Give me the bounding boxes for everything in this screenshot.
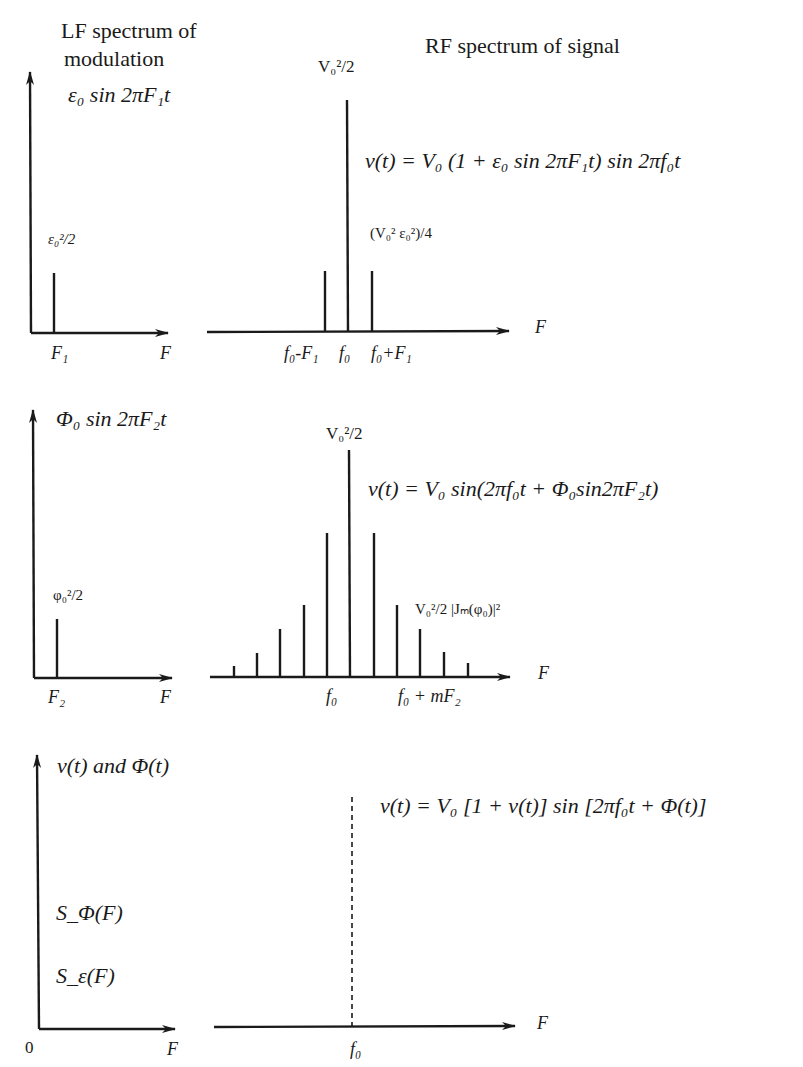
- fm-rf-sideband-label: V₀²/2 |Jₘ(φ₀)|²: [415, 602, 500, 617]
- am-lf-y-axis: [30, 72, 31, 333]
- noise-lf-origin: 0: [25, 1039, 34, 1056]
- fm-lf-x-axis-label: F: [160, 688, 171, 706]
- fm-rf-equation: v(t) = V₀ sin(2πf₀t + Φ₀sin2πF₂t): [368, 478, 658, 500]
- noise-rf-equation: v(t) = V₀ [1 + v(t)] sin [2πf₀t + Φ(t)]: [380, 795, 707, 817]
- noise-rf-x-axis-label: F: [537, 1014, 548, 1032]
- am-rf-x-tick-upper: f₀+F₁: [371, 344, 412, 362]
- fm-lf-signal: Φ₀ sin 2πF₂t: [56, 408, 166, 430]
- fm-rf-x-axis-label: F: [538, 664, 549, 682]
- am-rf-carrier-label: V₀²/2: [318, 58, 355, 75]
- fm-rf-carrier-label: V₀²/2: [326, 425, 363, 442]
- am-lf-title-line2: modulation: [64, 48, 164, 70]
- fm-lf-peak-label: φ₀²/2: [53, 588, 83, 603]
- am-lf-peak-label: ε₀²/2: [48, 232, 75, 247]
- noise-rf-x-tick-carrier: f₀: [350, 1040, 361, 1058]
- am-lf-x-axis-label: F: [160, 344, 171, 362]
- noise-lf-spectrum-eps: S_ε(F): [56, 965, 115, 987]
- am-rf-x-tick-carrier: f₀: [339, 344, 350, 362]
- fm-rf-x-tick-carrier: f₀: [326, 687, 337, 705]
- fm-lf-y-axis: [33, 410, 34, 678]
- noise-lf-title: v(t) and Φ(t): [57, 755, 169, 777]
- noise-lf-x-axis-label: F: [167, 1040, 178, 1058]
- am-rf-title: RF spectrum of signal: [425, 35, 620, 57]
- fm-rf-x-tick-sideband: f₀ + mF₂: [398, 687, 461, 705]
- noise-rf-x-axis: [214, 1026, 515, 1027]
- am-rf-carrier: [347, 100, 348, 332]
- fm-lf-x-tick: F₂: [48, 688, 65, 706]
- am-lf-title-line1: LF spectrum of: [61, 20, 197, 42]
- am-rf-x-axis-label: F: [535, 318, 546, 336]
- noise-lf-spectrum-phi: S_Φ(F): [56, 902, 123, 924]
- am-rf-x-tick-lower: f₀-F₁: [284, 344, 319, 362]
- am-rf-sideband-label: (V₀² ε₀²)/4: [370, 226, 432, 241]
- am-lf-x-tick: F₁: [51, 344, 68, 362]
- noise-lf-y-axis: [37, 755, 39, 1029]
- am-rf-x-axis: [207, 331, 509, 332]
- am-rf-equation: v(t) = V₀ (1 + ε₀ sin 2πF₁t) sin 2πf₀t: [365, 150, 680, 172]
- am-lf-signal: ε₀ sin 2πF₁t: [68, 84, 170, 106]
